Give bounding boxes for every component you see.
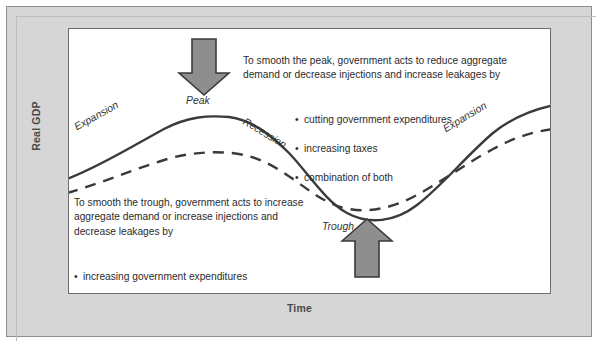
y-axis-label: Real GDP	[30, 86, 42, 166]
peak-policy-bullet: combination of both	[295, 171, 543, 186]
trough-policy-bullets: increasing government expenditures decre…	[74, 255, 322, 294]
curve-label-trough: Trough	[322, 221, 354, 232]
curve-label-peak: Peak	[186, 95, 210, 106]
peak-policy-bullet: cutting government expenditures	[295, 113, 543, 128]
trough-policy-note: To smooth the trough, government acts to…	[74, 181, 322, 294]
trough-policy-lead: To smooth the trough, government acts to…	[74, 196, 322, 240]
peak-policy-lead: To smooth the peak, government acts to r…	[243, 54, 543, 83]
chart-panel: Expansion Peak Recession Trough Expansio…	[68, 28, 551, 294]
down-arrow-icon	[179, 39, 229, 95]
x-axis-label: Time	[0, 302, 599, 314]
figure-container: Real GDP Time Expansion Peak Recession T…	[0, 0, 599, 344]
peak-policy-bullet: increasing taxes	[295, 142, 543, 157]
trough-policy-bullet: increasing government expenditures	[74, 270, 322, 285]
